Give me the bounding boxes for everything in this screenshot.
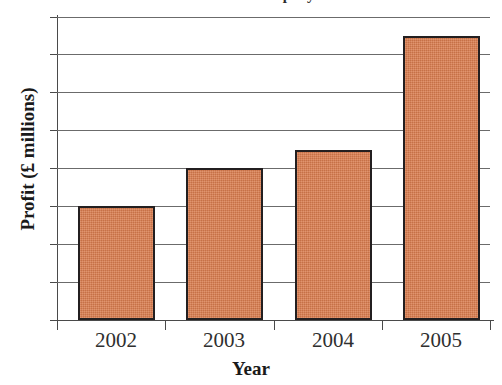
bar-2002 <box>78 206 155 320</box>
bar-chart-figure: Profit of a company Profit (£ millions) … <box>0 0 502 385</box>
gridline <box>57 17 490 18</box>
x-tick-label-1: 2003 <box>169 328 279 353</box>
plot-area <box>57 17 490 320</box>
bar-2004 <box>295 150 372 320</box>
x-axis-line <box>50 320 494 321</box>
x-tick-label-2: 2004 <box>278 328 388 353</box>
x-axis-title: Year <box>0 358 502 380</box>
bar-2003 <box>186 168 263 320</box>
bar-2005 <box>403 36 480 320</box>
y-axis-title: Profit (£ millions) <box>17 39 39 279</box>
chart-title: Profit of a company <box>0 0 502 3</box>
x-axis-tick <box>57 321 58 330</box>
x-tick-label-3: 2005 <box>386 328 496 353</box>
x-tick-label-0: 2002 <box>61 328 171 353</box>
